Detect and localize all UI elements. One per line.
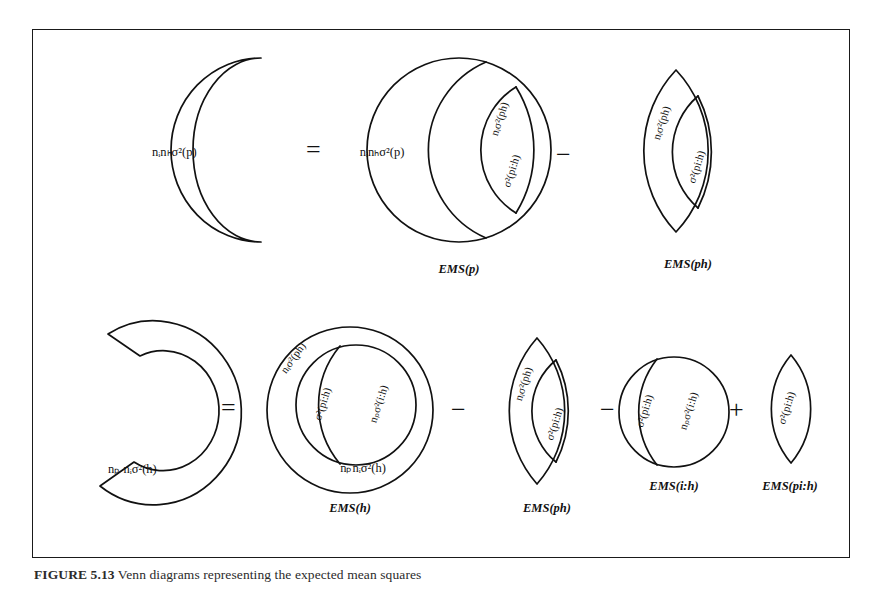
figure-caption-text: Venn diagrams representing the expected … — [118, 567, 422, 582]
row-p-region-outer-label: nᵢnₕσ²(p) — [360, 145, 405, 159]
operator-equals-row-p: = — [306, 135, 321, 164]
row-p-region-mid-label: nᵢσ²(ph) — [488, 100, 511, 137]
row-h-ems-pih-label: σ²(pi:h) — [775, 390, 798, 426]
operator-equals-row-h: = — [221, 393, 236, 422]
row-p-ems-ph-caption: EMS(ph) — [663, 257, 712, 271]
row-h-term-ems-ih: σ²(pi:h) nₚσ²(i:h) EMS(i:h) — [619, 357, 729, 493]
row-h-ems-pih-caption: EMS(pi:h) — [761, 479, 818, 493]
row-h-region-right-label: nₚσ²(i:h) — [367, 383, 391, 424]
row-h-ems-h-caption: EMS(h) — [328, 501, 371, 515]
row-p-term-ems-ph: nᵢσ²(ph) σ²(pi:h) EMS(ph) — [644, 70, 712, 271]
row-h-lhs-label: nₚ nᵢσ²(h) — [108, 462, 157, 476]
operator-minus-2-row-h: − — [600, 395, 615, 424]
operator-minus-row-p: − — [556, 140, 571, 169]
row-p-term-ems-p: nᵢnₕσ²(p) nᵢσ²(ph) σ²(pi:h) EMS(p) — [360, 58, 551, 276]
figure-caption: FIGURE 5.13 Venn diagrams representing t… — [34, 566, 854, 584]
row-p-region-inner-label: σ²(pi:h) — [500, 153, 523, 189]
row-h-term-ems-h: nᵢσ²(ph) σ²(pi:h) nₚσ²(i:h) nₚnᵢσ²(h) EM… — [267, 327, 433, 515]
figure-caption-label: FIGURE 5.13 — [34, 567, 115, 582]
row-p-lhs-crescent: nᵢnₕσ²(p) — [152, 58, 261, 242]
row-h-region-center-label: σ²(pi:h) — [311, 386, 334, 422]
row-p-ems-ph-outer-label: nᵢσ²(ph) — [650, 104, 673, 141]
row-p-ems-p-caption: EMS(p) — [438, 262, 480, 276]
figure-diagram: nᵢnₕσ²(p) = nᵢnₕσ²(p) nᵢσ²(ph) σ²(pi:h) … — [0, 0, 881, 591]
row-h-region-upperleft-label: nᵢσ²(ph) — [278, 340, 309, 376]
row-h-term-ems-ph: nᵢσ²(ph) σ²(pi:h) EMS(ph) — [509, 338, 571, 515]
row-h-ems-ph-outer-label: nᵢσ²(ph) — [512, 365, 535, 402]
row-h-ems-ih-left-label: σ²(pi:h) — [633, 393, 656, 429]
operator-plus-row-h: + — [729, 395, 744, 424]
operator-minus-1-row-h: − — [451, 395, 466, 424]
figure-root: nᵢnₕσ²(p) = nᵢnₕσ²(p) nᵢσ²(ph) σ²(pi:h) … — [0, 0, 881, 591]
row-h-ems-ph-caption: EMS(ph) — [522, 501, 571, 515]
row-h-region-outer-label: nₚnᵢσ²(h) — [340, 461, 386, 475]
row-h-ems-ih-caption: EMS(i:h) — [648, 479, 698, 493]
row-h-ems-ih-right-label: nₚσ²(i:h) — [677, 390, 701, 431]
row-h-ems-ph-inner-label: σ²(pi:h) — [543, 406, 566, 442]
row-h-term-ems-pih: σ²(pi:h) EMS(pi:h) — [761, 355, 818, 493]
row-p-lhs-label: nᵢnₕσ²(p) — [152, 145, 197, 159]
